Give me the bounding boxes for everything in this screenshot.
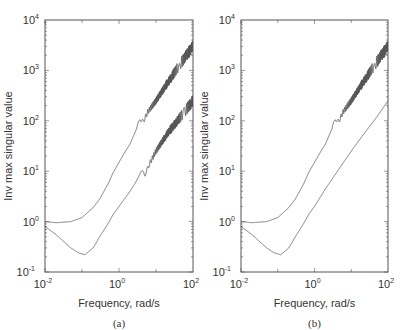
- y-tick-label: 102: [23, 114, 39, 127]
- y-tick-label: 10-1: [17, 265, 36, 278]
- curve-lower: [45, 96, 193, 255]
- y-tick-label: 103: [23, 63, 39, 76]
- x-tick-label: 10-2: [34, 277, 53, 290]
- x-tick-label: 10-2: [230, 277, 249, 290]
- axes-box: [45, 20, 193, 272]
- y-axis-label: Inv max singular value: [198, 91, 210, 200]
- x-tick-label: 102: [378, 277, 394, 290]
- curve-lower: [241, 101, 388, 255]
- x-axis-label: Frequency, rad/s: [78, 297, 160, 309]
- y-tick-label: 100: [23, 215, 39, 228]
- panel-b: 10-110010110210310410-2100102Frequency, …: [198, 13, 394, 330]
- y-axis-label: Inv max singular value: [2, 91, 14, 200]
- figure: 10-110010110210310410-2100102Frequency, …: [0, 0, 404, 330]
- panel-caption: (b): [308, 317, 321, 330]
- y-tick-label: 100: [219, 215, 235, 228]
- x-axis-label: Frequency, rad/s: [274, 297, 356, 309]
- x-tick-label: 100: [304, 277, 320, 290]
- panel-caption: (a): [113, 317, 126, 330]
- y-tick-label: 101: [23, 164, 39, 177]
- x-tick-label: 100: [109, 277, 125, 290]
- y-tick-label: 101: [219, 164, 235, 177]
- y-tick-label: 10-1: [213, 265, 232, 278]
- y-tick-label: 104: [219, 13, 235, 26]
- curve-upper: [241, 41, 388, 222]
- y-tick-label: 102: [219, 114, 235, 127]
- panel-a: 10-110010110210310410-2100102Frequency, …: [2, 13, 199, 330]
- y-tick-label: 104: [23, 13, 39, 26]
- y-tick-label: 103: [219, 63, 235, 76]
- axes-box: [241, 20, 388, 272]
- x-tick-label: 102: [183, 277, 199, 290]
